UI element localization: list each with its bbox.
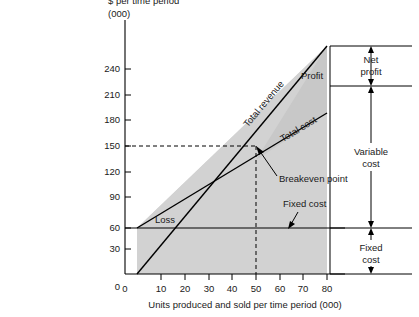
x-tick-label-50: 50: [251, 283, 262, 294]
breakeven-chart: 240 210 180 150 120 90 60 30 0 0 10 20 3…: [0, 0, 419, 317]
loss-label: Loss: [155, 214, 175, 225]
fixed-cost-pointer-label: Fixed cost: [283, 198, 327, 209]
x-tick-label-80: 80: [322, 283, 333, 294]
y-tick-label-150: 150: [104, 140, 120, 151]
y-tick-label-0: 0: [115, 281, 120, 292]
x-ticks: [161, 274, 327, 280]
x-tick-label-0: 0: [122, 283, 127, 294]
variable-cost-arrow-down: [368, 221, 374, 228]
fixed-cost-bracket-label-line1: Fixed: [359, 242, 382, 253]
y-tick-labels: 240 210 180 150 120 90 60 30 0: [104, 63, 120, 292]
chart-svg: 240 210 180 150 120 90 60 30 0 0 10 20 3…: [0, 0, 419, 317]
profit-label: Profit: [301, 70, 324, 81]
net-profit-arrow-down: [368, 79, 374, 86]
fixed-cost-arrow-down: [368, 267, 374, 274]
y-tick-label-60: 60: [109, 222, 120, 233]
variable-cost-label-line2: cost: [362, 158, 380, 169]
variable-cost-bracket: Variable cost: [343, 86, 399, 228]
x-axis-title: Units produced and sold per time period …: [148, 299, 341, 310]
x-tick-label-10: 10: [156, 283, 167, 294]
y-axis-title-line2: (000): [108, 8, 130, 19]
breakeven-point-label: Breakeven point: [279, 173, 348, 184]
x-tick-label-70: 70: [298, 283, 309, 294]
fixed-cost-arrow-up: [368, 228, 374, 235]
y-tick-label-240: 240: [104, 63, 120, 74]
variable-cost-arrow-up: [368, 86, 374, 93]
x-tick-label-40: 40: [227, 283, 238, 294]
x-tick-label-60: 60: [275, 283, 286, 294]
x-tick-label-30: 30: [204, 283, 215, 294]
y-tick-label-180: 180: [104, 114, 120, 125]
x-tick-label-20: 20: [180, 283, 191, 294]
fixed-cost-bracket: Fixed cost: [345, 228, 397, 274]
fixed-cost-bracket-label-line2: cost: [362, 254, 380, 265]
variable-cost-label-line1: Variable: [354, 146, 388, 157]
side-brackets: Net profit Variable cost Fixed cost: [330, 46, 412, 274]
y-tick-label-210: 210: [104, 89, 120, 100]
x-tick-labels: 0 10 20 30 40 50 60 70 80: [122, 283, 332, 294]
net-profit-arrow-up: [368, 46, 374, 53]
net-profit-bracket: Net profit: [360, 46, 381, 86]
y-ticks: [125, 69, 131, 249]
y-axis-title-line1: $ per time period: [108, 0, 179, 6]
net-profit-label-line2: profit: [360, 66, 381, 77]
y-tick-label-90: 90: [109, 191, 120, 202]
y-tick-label-120: 120: [104, 166, 120, 177]
net-profit-label-line1: Net: [364, 54, 379, 65]
y-tick-label-30: 30: [109, 243, 120, 254]
